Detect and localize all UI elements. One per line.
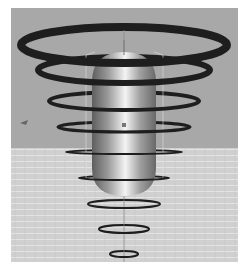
render-viewport — [11, 8, 238, 262]
pivot-marker — [122, 123, 126, 127]
scene-svg — [11, 8, 238, 262]
